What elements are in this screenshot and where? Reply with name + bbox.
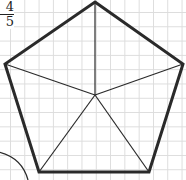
- diagram-canvas: 4 5: [0, 0, 186, 180]
- pentagon-outline: [5, 2, 183, 172]
- partial-arc: [0, 150, 28, 180]
- pentagon-figure: [0, 0, 186, 180]
